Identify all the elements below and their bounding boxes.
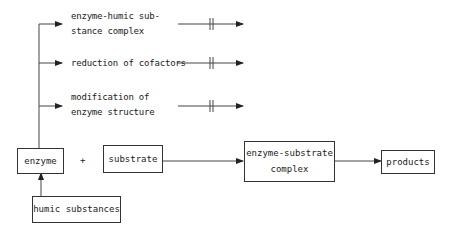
branch-label-modification: modification of enzyme structure (71, 91, 155, 119)
enzyme-substrate-complex-box: enzyme-substrate complex (244, 141, 335, 182)
humic-substances-box: humic substances (32, 196, 121, 223)
humic-substances-label: humic substances (33, 203, 120, 216)
branch-label-line: modification of (71, 91, 155, 104)
branch-label-line: stance complex (71, 25, 160, 38)
branch-label-complex: enzyme-humic sub- stance complex (71, 10, 160, 38)
branch-label-line: enzyme-humic sub- (71, 10, 160, 23)
products-label: products (386, 156, 429, 169)
branch-label-cofactors: reduction of cofactors (71, 57, 186, 70)
complex-label-line: enzyme-substrate (246, 147, 333, 160)
enzyme-label: enzyme (24, 155, 57, 168)
complex-label-line: complex (271, 163, 309, 176)
plus-sign: + (80, 154, 85, 167)
enzyme-box: enzyme (17, 148, 64, 174)
substrate-label: substrate (109, 153, 158, 166)
branch-label-line: reduction of cofactors (71, 57, 186, 70)
branch-label-line: enzyme structure (71, 106, 155, 119)
products-box: products (381, 150, 435, 174)
substrate-box: substrate (103, 145, 163, 173)
